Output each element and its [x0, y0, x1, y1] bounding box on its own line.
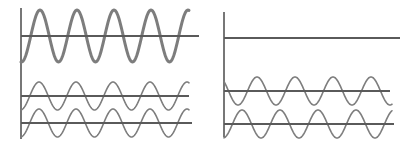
left-panel: [21, 8, 199, 139]
right-panel: [224, 12, 400, 138]
waveform-diagram: [0, 0, 417, 147]
